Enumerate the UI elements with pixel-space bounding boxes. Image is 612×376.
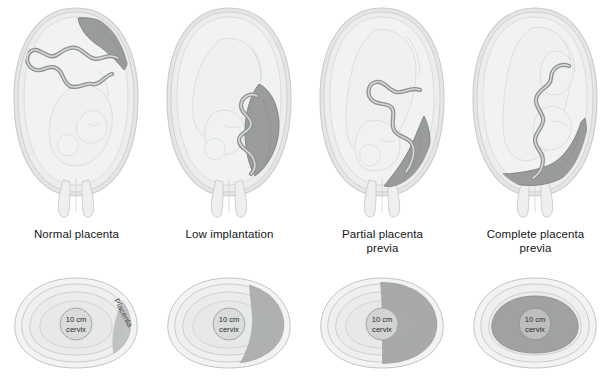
caption-line: previa — [459, 242, 612, 256]
cervix-size-label: 10 cm — [219, 315, 240, 324]
caption-line: previa — [306, 242, 459, 256]
placenta-previa-figure: Normal placenta Low implantation Partial… — [0, 0, 612, 376]
cervix-size-label: 10 cm — [525, 315, 546, 324]
caption-complete-previa: Complete placenta previa — [459, 228, 612, 255]
cervical-os: 10 cm cervix — [519, 308, 551, 340]
cervix-view-complete-previa: 10 cm cervix — [459, 268, 612, 376]
caption-line: Low implantation — [153, 228, 306, 242]
cervix-canal — [58, 178, 93, 217]
cervix-name-label: cervix — [66, 325, 86, 334]
caption-line: Normal placenta — [0, 228, 153, 242]
cervix-view-partial-previa: 10 cm cervix — [306, 268, 459, 376]
cervix-size-label: 10 cm — [372, 315, 393, 324]
uterus-diagram-complete-previa — [459, 0, 612, 222]
caption-low-implantation: Low implantation — [153, 228, 306, 242]
cervix-canal — [211, 178, 246, 217]
cervical-os: 10 cm cervix — [213, 308, 245, 340]
uterus-diagram-normal-placenta — [0, 0, 153, 222]
cervix-view-normal-placenta: 10 cm cervix Placenta — [0, 268, 153, 376]
cervix-view-low-implantation: 10 cm cervix — [153, 268, 306, 376]
cervix-name-label: cervix — [219, 325, 239, 334]
caption-line: Complete placenta — [459, 228, 612, 242]
uterus-diagram-partial-previa — [306, 0, 459, 222]
cervix-size-label: 10 cm — [66, 315, 87, 324]
cervical-os: 10 cm cervix — [60, 308, 92, 340]
cervix-name-label: cervix — [525, 325, 545, 334]
caption-normal-placenta: Normal placenta — [0, 228, 153, 242]
caption-partial-previa: Partial placenta previa — [306, 228, 459, 255]
cervical-os: 10 cm cervix — [366, 308, 398, 340]
caption-line: Partial placenta — [306, 228, 459, 242]
uterus-diagram-low-implantation — [153, 0, 306, 222]
cervix-name-label: cervix — [372, 325, 392, 334]
